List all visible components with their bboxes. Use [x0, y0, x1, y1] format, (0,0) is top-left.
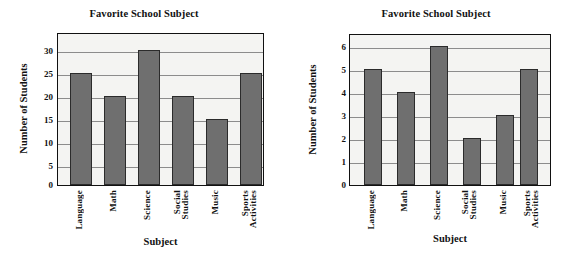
bar-science: [138, 50, 160, 185]
y-tick-label: 20: [44, 92, 53, 102]
x-category-line: Studies: [469, 190, 477, 219]
bar-math: [104, 96, 126, 185]
y-tick-label: 4: [342, 88, 347, 98]
y-tick-label: 5: [342, 65, 347, 75]
x-axis-title: Subject: [57, 236, 264, 247]
x-category-line: Math: [109, 190, 117, 212]
bars-group: [350, 35, 550, 185]
x-category-line: Music: [211, 190, 219, 215]
y-tick-label: 15: [44, 115, 53, 125]
bar-science: [430, 46, 448, 185]
y-tick-label: 1: [342, 157, 347, 167]
y-tick-label: 5: [49, 161, 54, 171]
x-category-line: Science: [433, 190, 441, 220]
chart-title: Favorite School Subject: [296, 8, 576, 19]
x-category-line: Language: [75, 190, 83, 230]
y-tick-label: 10: [44, 138, 53, 148]
chart-panel-left: Favorite School Subject Number of Studen…: [0, 0, 288, 257]
plot-area: [349, 34, 551, 186]
y-tick-label: 0: [342, 180, 347, 190]
y-axis-title: Number of Students: [18, 44, 29, 174]
y-axis-tick-labels: 6 5 4 3 2 1 0: [328, 34, 346, 186]
bar-social-studies: [463, 138, 481, 185]
y-tick-label: 25: [44, 69, 53, 79]
x-category-line: Studies: [181, 190, 189, 219]
bar-music: [496, 115, 514, 185]
chart-title: Favorite School Subject: [0, 8, 288, 19]
y-axis-title: Number of Students: [307, 45, 318, 175]
y-tick-label: 6: [342, 42, 347, 52]
bar-math: [397, 92, 415, 185]
y-axis-tick-labels: 30 25 20 15 10 5 0: [30, 33, 53, 185]
plot-area: [57, 33, 264, 186]
bar-sports-activities: [520, 69, 538, 185]
charts-row: Favorite School Subject Number of Studen…: [0, 0, 577, 257]
bar-language: [364, 69, 382, 185]
x-category-line: Math: [400, 190, 408, 212]
bar-language: [70, 73, 92, 185]
bar-social-studies: [172, 96, 194, 185]
x-category-line: Language: [367, 190, 375, 230]
x-category-line: Science: [143, 190, 151, 220]
y-tick-label: 0: [49, 180, 54, 190]
x-category-line: Activities: [249, 190, 257, 228]
y-tick-label: 3: [342, 111, 347, 121]
x-category-line: Music: [499, 190, 507, 215]
y-tick-label: 2: [342, 134, 347, 144]
bar-sports-activities: [240, 73, 262, 185]
chart-panel-right: Favorite School Subject Number of Studen…: [288, 0, 576, 257]
x-axis-title: Subject: [349, 233, 551, 244]
y-tick-label: 30: [44, 46, 53, 56]
bars-group: [58, 34, 263, 185]
bar-music: [206, 119, 228, 185]
x-category-line: Activities: [531, 190, 539, 228]
